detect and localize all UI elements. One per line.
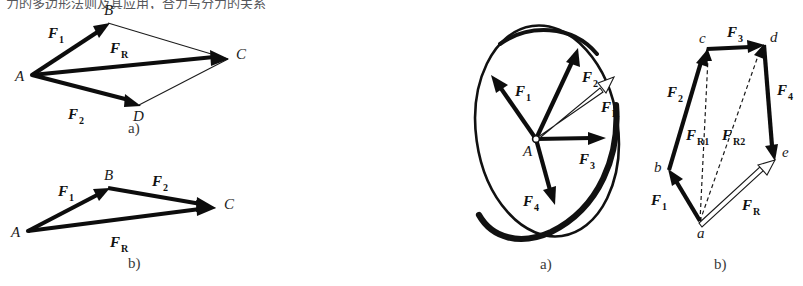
vector-f3-arrow-body <box>536 132 606 145</box>
vertex-dot-a-tri <box>26 229 30 233</box>
vertex-dot-a <box>30 73 34 77</box>
point-label-b: B <box>104 2 113 18</box>
point-label-e-poly: e <box>782 144 789 160</box>
vector-label-fr2-poly-sub: R2 <box>733 136 745 147</box>
vector-f2-arrow-body <box>536 48 580 139</box>
vector-label-fr-body: F R <box>600 99 620 119</box>
vector-f2-arrow-poly <box>669 50 708 170</box>
point-label-a: A <box>14 68 25 84</box>
vector-label-f4-body-sub: 4 <box>534 202 539 213</box>
vector-label-fr1-poly: F R1 <box>685 127 709 147</box>
vector-label-f3-poly: F 3 <box>726 24 743 44</box>
vector-label-f2-sub: 2 <box>79 115 84 126</box>
vector-label-f1-tri-sub: 1 <box>69 192 74 203</box>
vector-label-f1-tri-base: F <box>57 183 68 199</box>
panel-b-triangle: A B C F 1 F 2 F R b) <box>10 167 235 272</box>
vector-label-f3-body-sub: 3 <box>590 160 595 171</box>
vector-label-f2-body-sub: 2 <box>593 78 598 89</box>
vector-label-fr-body-base: F <box>600 99 611 115</box>
panel-d-force-polygon: a b c d e F 1 F 2 F 3 F 4 F <box>650 24 793 273</box>
vector-label-f1-body-sub: 1 <box>526 92 531 103</box>
vector-label-fr-tri-base: F <box>109 234 120 250</box>
clipped-header-text: 力的多边形法则及其应用，合力与分力的关系 <box>6 0 266 11</box>
vector-label-f3-body: F 3 <box>578 151 595 171</box>
panel-caption-b: b) <box>128 255 141 272</box>
figure-sheet: 力的多边形法则及其应用，合力与分力的关系 <box>0 0 803 286</box>
vector-label-f1-poly-sub: 1 <box>662 201 667 212</box>
vector-label-f4-body-base: F <box>522 193 533 209</box>
point-label-d-poly: d <box>770 29 778 45</box>
vector-label-f3-body-base: F <box>578 151 589 167</box>
point-label-c-poly: c <box>699 30 706 46</box>
vector-label-f1-sub: 1 <box>59 34 64 45</box>
vector-label-f3-poly-sub: 3 <box>738 33 743 44</box>
point-label-b-poly: b <box>654 159 662 175</box>
vector-label-f4-poly: F 4 <box>776 82 793 102</box>
vector-label-fr-poly-sub: R <box>753 206 761 217</box>
rigid-body-shadow-edge <box>479 105 616 239</box>
vector-label-fr1-poly-sub: R1 <box>697 136 709 147</box>
vector-label-fr1-poly-base: F <box>685 127 696 143</box>
vector-f1-arrow-poly <box>668 169 700 221</box>
vector-label-f2-poly-sub: 2 <box>678 93 683 104</box>
vector-label-f1-base: F <box>47 25 58 41</box>
vector-label-fr-tri: F R <box>109 234 129 254</box>
vector-label-fr-sub: R <box>121 49 129 60</box>
guide-line-dc <box>139 59 228 105</box>
point-label-c: C <box>236 46 247 62</box>
vector-label-f4-body: F 4 <box>522 193 539 213</box>
point-label-a-tri: A <box>10 224 21 240</box>
vector-label-f2-poly: F 2 <box>666 84 683 104</box>
vector-label-f2-poly-base: F <box>666 84 677 100</box>
vector-label-f1-poly-base: F <box>650 192 661 208</box>
panel-a-parallelogram: A B C D F 1 F 2 F R a) <box>14 2 247 137</box>
figure-canvas: 力的多边形法则及其应用，合力与分力的关系 <box>0 0 803 286</box>
vector-label-fr2-poly-base: F <box>721 127 732 143</box>
vector-label-f2-base: F <box>67 106 78 122</box>
vector-label-f1-poly: F 1 <box>650 192 667 212</box>
vector-label-f3-poly-base: F <box>726 24 737 40</box>
vector-label-fr-body-sub: R <box>612 108 620 119</box>
clipped-header-text-value: 力的多边形法则及其应用，合力与分力的关系 <box>6 0 266 11</box>
vector-f4-arrow-poly <box>764 45 778 161</box>
vector-label-fr: F R <box>109 40 129 60</box>
vector-label-f2-body: F 2 <box>581 69 598 89</box>
rigid-body-top-edge <box>500 30 597 54</box>
vector-label-fr-tri-sub: R <box>121 243 129 254</box>
vector-label-f1-body: F 1 <box>514 83 531 103</box>
vector-f1-arrow-body <box>491 75 536 139</box>
point-label-a-body: A <box>522 143 533 159</box>
vector-label-f2-tri-base: F <box>151 173 162 189</box>
partial-resultant-fr1 <box>700 47 712 221</box>
vector-label-f1-body-base: F <box>514 83 525 99</box>
vector-label-f4-poly-base: F <box>776 82 787 98</box>
vector-label-fr-poly-base: F <box>741 197 752 213</box>
vector-fr-arrow-poly <box>699 160 775 227</box>
panel-caption-a: a) <box>128 120 140 137</box>
vector-label-f2-body-base: F <box>581 69 592 85</box>
panel-caption-d: b) <box>714 256 727 273</box>
origin-dot-a-body <box>533 136 540 143</box>
vector-f3-arrow-poly <box>707 40 765 53</box>
vector-label-f2-tri: F 2 <box>151 173 168 193</box>
vector-label-fr-poly: F R <box>741 197 761 217</box>
vector-f4-arrow-body <box>536 139 556 205</box>
vector-label-f1-tri: F 1 <box>57 183 74 203</box>
panel-c-concurrent: A F 1 F 2 F 3 F 4 F R a) <box>462 16 632 273</box>
vector-label-fr-base: F <box>109 40 120 56</box>
vector-label-f4-poly-sub: 4 <box>788 91 793 102</box>
panel-caption-c: a) <box>540 256 552 273</box>
point-label-b-tri: B <box>104 167 113 183</box>
vector-label-f1: F 1 <box>47 25 64 45</box>
point-label-a-poly: a <box>697 225 705 241</box>
vector-label-fr2-poly: F R2 <box>721 127 745 147</box>
vector-f2-arrow <box>32 75 141 107</box>
vector-label-f2: F 2 <box>67 106 84 126</box>
point-label-c-tri: C <box>224 196 235 212</box>
vector-label-f2-tri-sub: 2 <box>163 182 168 193</box>
